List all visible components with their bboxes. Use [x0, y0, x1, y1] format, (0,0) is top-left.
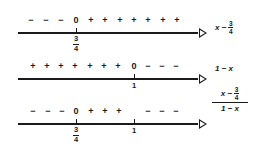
sign: −	[28, 106, 38, 116]
sign: +	[158, 15, 168, 25]
number-line	[18, 32, 198, 34]
sign: −	[157, 61, 167, 71]
arrow-right-icon	[199, 74, 207, 84]
sign: +	[113, 61, 123, 71]
zero-marker: 0	[71, 106, 81, 116]
sign: +	[99, 61, 109, 71]
tick	[134, 74, 135, 80]
sign: +	[143, 15, 153, 25]
sign: −	[57, 106, 67, 116]
arrow-right-icon	[199, 119, 207, 129]
sign: +	[172, 15, 182, 25]
row-label: 1 − x	[215, 64, 233, 73]
sign: +	[85, 61, 95, 71]
sign: −	[56, 15, 66, 25]
sign: +	[86, 15, 96, 25]
zero-marker: 0	[129, 61, 139, 71]
number-line	[18, 78, 198, 80]
tick-label: 1	[132, 126, 136, 135]
sign: +	[56, 61, 66, 71]
sign: −	[43, 106, 53, 116]
sign: −	[171, 61, 181, 71]
tick-label: 34	[73, 126, 79, 144]
sign: +	[42, 61, 52, 71]
sign: +	[70, 61, 80, 71]
number-line	[18, 123, 198, 125]
sign: −	[143, 61, 153, 71]
tick	[134, 119, 135, 125]
zero-marker: 0	[71, 15, 81, 25]
sign: +	[129, 15, 139, 25]
sign: +	[28, 61, 38, 71]
sign: −	[143, 106, 153, 116]
sign: +	[100, 106, 110, 116]
sign: +	[115, 15, 125, 25]
sign: −	[41, 15, 51, 25]
arrow-right-icon	[199, 28, 207, 38]
row-label: x − 34 1 − x	[212, 86, 248, 113]
sign: −	[26, 15, 36, 25]
sign: +	[100, 15, 110, 25]
sign: +	[114, 106, 124, 116]
sign: −	[157, 106, 167, 116]
row-label: x − 34	[215, 20, 233, 35]
sign: −	[171, 106, 181, 116]
tick-label: 34	[73, 35, 79, 53]
tick-label: 1	[132, 81, 136, 90]
sign: +	[86, 106, 96, 116]
